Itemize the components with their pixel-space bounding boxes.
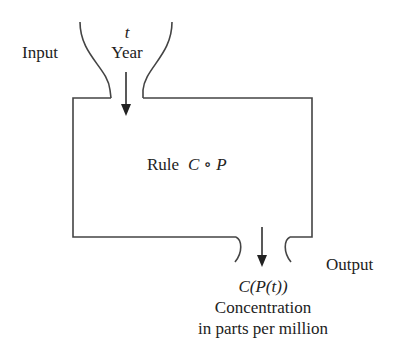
rule-word: Rule — [147, 155, 179, 174]
output-spout-right-wall — [285, 237, 291, 262]
input-label: Input — [22, 43, 58, 62]
output-expression: C(P(t)) — [238, 277, 287, 296]
function-machine-diagram: Input t Year Rule C ∘ P Output C(P(t)) C… — [0, 0, 405, 342]
input-variable: t — [125, 23, 131, 42]
output-arrow-icon — [257, 227, 267, 267]
output-description-line1: Concentration — [215, 298, 312, 317]
input-funnel-left-wall — [80, 22, 111, 98]
input-arrow-icon — [121, 72, 131, 116]
input-funnel-right-wall — [143, 22, 172, 98]
output-spout-left-wall — [235, 237, 241, 262]
output-description-line2: in parts per million — [198, 319, 328, 338]
rule-expression: C ∘ P — [188, 155, 227, 174]
output-label: Output — [326, 255, 374, 274]
input-description: Year — [111, 43, 143, 62]
